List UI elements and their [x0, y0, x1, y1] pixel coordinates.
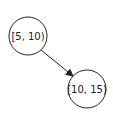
- tree-diagram: [5, 10) [10, 15): [0, 0, 113, 118]
- tree-node-n2: [10, 15): [67, 70, 107, 108]
- node-label: [5, 10): [11, 31, 44, 42]
- edge-n1-n2: [41, 50, 73, 76]
- tree-node-n1: [5, 10): [9, 17, 47, 55]
- node-label: [10, 15): [67, 84, 107, 95]
